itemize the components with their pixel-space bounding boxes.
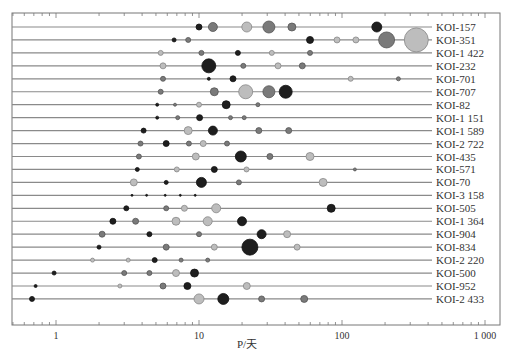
planet-bubble — [353, 168, 356, 171]
planet-bubble — [184, 283, 191, 290]
planet-bubble — [133, 218, 139, 224]
system-row: KOI-904 — [12, 228, 476, 240]
x-tick-label: 1 — [54, 330, 59, 341]
planet-bubble — [210, 88, 218, 96]
system-label: KOI-70 — [436, 176, 471, 188]
planet-bubble — [191, 269, 199, 277]
system-row: KOI-834 — [12, 239, 476, 255]
planet-bubble — [212, 204, 221, 213]
planet-bubble — [256, 128, 262, 134]
bubble-chart: KOI-157KOI-351KOI-1 422KOI-232KOI-701KOI… — [0, 0, 508, 357]
planet-bubble — [286, 128, 292, 134]
system-row: KOI-1 589 — [12, 125, 484, 137]
x-tick-label: 1 000 — [474, 330, 497, 341]
planet-bubble — [146, 194, 148, 196]
system-label: KOI-1 589 — [436, 125, 484, 137]
planet-bubble — [256, 103, 260, 107]
planet-bubble — [110, 218, 116, 224]
system-row: KOI-2 220 — [12, 254, 484, 266]
planet-bubble — [348, 76, 353, 81]
planet-bubble — [235, 50, 240, 55]
planet-bubble — [196, 24, 202, 30]
planet-bubble — [263, 21, 275, 33]
planet-bubble — [163, 244, 169, 250]
planet-bubble — [197, 115, 203, 121]
planet-bubble — [160, 63, 166, 69]
planet-bubble — [152, 258, 157, 263]
planet-bubble — [200, 141, 206, 147]
planet-bubble — [176, 116, 180, 120]
planet-bubble — [194, 194, 196, 196]
system-label: KOI-904 — [436, 228, 476, 240]
system-label: KOI-351 — [436, 34, 476, 46]
planet-bubble — [294, 244, 300, 250]
system-row: KOI-435 — [12, 151, 476, 163]
planet-bubble — [141, 128, 146, 133]
planet-bubble — [263, 86, 275, 98]
system-row: KOI-3 158 — [12, 189, 484, 201]
x-axis-label: P/天 — [237, 338, 257, 350]
planet-bubble — [199, 50, 204, 55]
system-label: KOI-701 — [436, 73, 476, 85]
planet-bubble — [334, 37, 340, 43]
planet-bubble — [396, 77, 400, 81]
planet-bubble — [308, 50, 313, 55]
planet-bubble — [126, 258, 130, 262]
planet-bubble — [242, 116, 246, 120]
planet-bubble — [164, 194, 166, 196]
planet-bubble — [161, 76, 166, 81]
planet-bubble — [222, 101, 230, 109]
planet-bubble — [229, 116, 233, 120]
planet-bubble — [257, 230, 266, 239]
planet-bubble — [239, 85, 253, 99]
planet-bubble — [118, 284, 122, 288]
system-label: KOI-3 158 — [436, 189, 484, 201]
system-label: KOI-1 364 — [436, 215, 484, 227]
planet-bubble — [299, 63, 305, 69]
planet-bubble — [269, 50, 274, 55]
planet-bubble — [301, 295, 308, 302]
x-tick-label: 10 — [194, 330, 204, 341]
planet-bubble — [244, 167, 249, 172]
planet-bubble — [211, 244, 217, 250]
planet-bubble — [230, 76, 236, 82]
planet-bubble — [186, 37, 191, 42]
system-label: KOI-834 — [436, 241, 476, 253]
planet-bubble — [173, 270, 180, 277]
planet-bubble — [99, 231, 105, 237]
system-label: KOI-232 — [436, 60, 476, 72]
system-label: KOI-500 — [436, 267, 476, 279]
planet-bubble — [196, 177, 206, 187]
planet-bubble — [158, 89, 163, 94]
system-row: KOI-2 433 — [12, 293, 484, 305]
planet-bubble — [184, 127, 192, 135]
planet-bubble — [267, 154, 273, 160]
planet-bubble — [319, 178, 327, 186]
planet-systems: KOI-157KOI-351KOI-1 422KOI-232KOI-701KOI… — [12, 21, 484, 305]
planet-bubble — [91, 258, 95, 262]
planet-bubble — [225, 141, 230, 146]
system-label: KOI-952 — [436, 280, 476, 292]
planet-bubble — [194, 294, 204, 304]
planet-bubble — [172, 217, 180, 225]
system-row: KOI-1 364 — [12, 215, 484, 227]
system-row: KOI-2 722 — [12, 138, 484, 150]
planet-bubble — [206, 258, 210, 262]
planet-bubble — [379, 32, 395, 48]
planet-bubble — [327, 204, 335, 212]
system-label: KOI-2 220 — [436, 254, 484, 266]
planet-bubble — [242, 22, 252, 32]
planet-bubble — [211, 166, 217, 172]
planet-bubble — [306, 153, 314, 161]
planet-bubble — [241, 63, 246, 68]
planet-bubble — [208, 23, 217, 32]
planet-bubble — [284, 231, 291, 238]
system-row: KOI-351 — [12, 28, 476, 52]
planet-bubble — [179, 258, 183, 262]
planet-bubble — [236, 180, 241, 185]
system-label: KOI-707 — [436, 86, 476, 98]
planet-bubble — [243, 283, 250, 290]
system-label: KOI-157 — [436, 21, 476, 33]
system-label: KOI-82 — [436, 99, 470, 111]
planet-bubble — [156, 116, 159, 119]
